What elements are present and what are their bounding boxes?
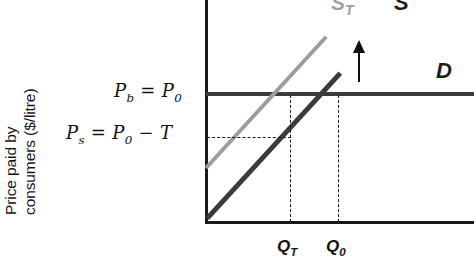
- supply-with-tax-label: ST: [331, 0, 354, 18]
- buyer-price-equals: =: [140, 80, 155, 101]
- x-axis: [205, 221, 474, 224]
- shift-arrow-icon: [353, 40, 365, 82]
- y-axis-label-line-1: Price paid by: [2, 127, 20, 215]
- quantity-original-symbol: Q: [326, 237, 339, 256]
- supply-label: S: [394, 0, 409, 16]
- seller-price-guide-line: [207, 137, 291, 138]
- y-axis-label: Price paid by consumers ($/litre): [0, 0, 58, 215]
- supply-demand-tax-diagram: Price paid by consumers ($/litre) Pb = P…: [0, 0, 474, 268]
- quantity-tax-label: QT: [277, 237, 297, 258]
- seller-price-minus: −: [139, 122, 154, 143]
- quantity-original-subscript: 0: [339, 246, 345, 258]
- seller-price-tax-symbol: T: [160, 122, 172, 143]
- demand-label: D: [436, 58, 452, 84]
- buyer-price-value-symbol: P: [162, 80, 174, 101]
- supply-with-tax-subscript: T: [345, 2, 354, 18]
- quantity-tax-guide-line: [290, 95, 291, 222]
- y-axis-label-line-2: consumers ($/litre): [21, 89, 39, 215]
- seller-price-value-subscript: 0: [125, 133, 133, 147]
- buyer-price-symbol: P: [114, 80, 126, 101]
- demand-curve: [206, 92, 474, 96]
- quantity-tax-subscript: T: [290, 246, 297, 258]
- shift-arrow-stem: [358, 49, 361, 82]
- buyer-price-value-subscript: 0: [174, 91, 182, 105]
- quantity-tax-symbol: Q: [277, 237, 290, 256]
- quantity-original-label: Q0: [326, 237, 346, 258]
- seller-price-subscript: s: [78, 133, 84, 147]
- supply-with-tax-symbol: S: [331, 0, 345, 14]
- seller-price-value-symbol: P: [112, 122, 124, 143]
- seller-price-equals: =: [91, 122, 106, 143]
- seller-price-label: Ps = P0 − T: [66, 122, 172, 147]
- buyer-price-subscript: b: [126, 91, 134, 105]
- buyer-price-label: Pb = P0: [114, 80, 182, 105]
- quantity-original-guide-line: [338, 95, 339, 222]
- y-axis: [205, 0, 208, 224]
- seller-price-symbol: P: [66, 122, 78, 143]
